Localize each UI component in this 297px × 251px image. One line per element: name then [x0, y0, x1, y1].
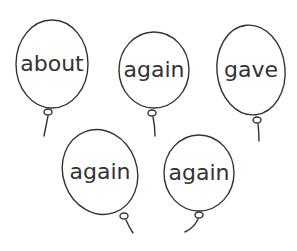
knot-icon [253, 117, 261, 123]
balloon-word-again-3: again [169, 162, 230, 184]
balloon-word-gave: gave [224, 59, 278, 81]
balloon-word-again-1: again [124, 59, 185, 81]
balloon-word-worksheet: about again gave again again [0, 0, 297, 251]
knot-icon [195, 212, 203, 218]
knot-icon [44, 109, 52, 115]
balloon-word-again-2: again [70, 161, 131, 183]
balloon-1-shape [16, 20, 88, 136]
knot-icon [148, 110, 156, 116]
balloon-word-about: about [20, 53, 83, 75]
balloon-drawings [0, 0, 297, 251]
balloon-2-shape [119, 32, 189, 136]
knot-icon [120, 213, 128, 219]
